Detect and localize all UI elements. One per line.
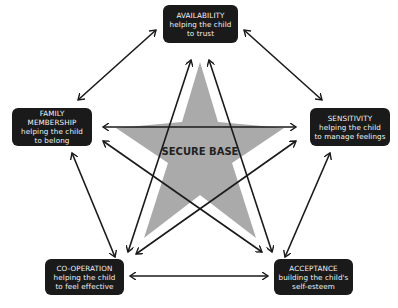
node-line: helping the child [16,127,88,136]
node-line: helping the child [49,273,120,282]
arrow-availability-sensitivity [244,30,322,100]
node-line: self-esteem [278,282,349,291]
node-line: to belong [16,136,88,145]
arrow-family-cooperation [72,153,115,257]
node-title: AVAILABILITY [167,11,234,20]
node-line: to feel effective [49,282,120,291]
node-line: helping the child [314,123,386,132]
node-availability: AVAILABILITY helping the child to trust [163,5,238,43]
node-line: to manage feelings [314,132,386,141]
node-title: FAMILY MEMBERSHIP [16,109,88,127]
secure-base-label: SECURE BASE [150,146,250,157]
node-title: SENSITIVITY [314,114,386,123]
node-acceptance: ACCEPTANCE building the child's self-est… [274,259,353,295]
node-line: helping the child [167,20,234,29]
node-title: CO-OPERATION [49,264,120,273]
node-title: ACCEPTANCE [278,264,349,273]
node-line: building the child's [278,273,349,282]
node-family-membership: FAMILY MEMBERSHIP helping the child to b… [12,108,92,146]
arrow-availability-family [78,30,156,100]
node-co-operation: CO-OPERATION helping the child to feel e… [45,259,124,295]
node-line: to trust [167,29,234,38]
arrow-sensitivity-acceptance [285,153,330,257]
node-sensitivity: SENSITIVITY helping the child to manage … [310,108,390,146]
